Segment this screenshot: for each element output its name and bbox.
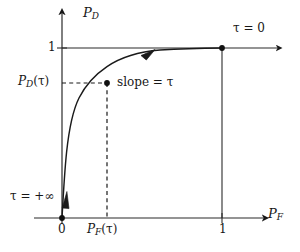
pd-tau-label: PD(τ) (18, 75, 49, 89)
slope-annotation-value: = τ (149, 75, 173, 89)
x-axis-label-main: P (268, 206, 277, 221)
y-axis-label: PD (83, 6, 99, 21)
tau-infinity-annotation: τ = +∞ (10, 190, 54, 202)
operating-point-marker (104, 80, 110, 86)
pd-tau-suffix: (τ) (33, 74, 49, 88)
x-tick-label-one: 1 (219, 223, 227, 235)
pf-tau-label: PF(τ) (87, 223, 117, 237)
x-axis-label-sub: F (277, 212, 283, 222)
slope-annotation-word: slope (117, 75, 149, 89)
pf-tau-prefix: P (87, 222, 95, 236)
tau-infinity-point-marker (59, 215, 65, 221)
pf-tau-suffix: (τ) (101, 222, 117, 236)
y-axis-label-main: P (83, 5, 92, 20)
tau-zero-point-marker (219, 45, 225, 51)
x-axis-label: PF (268, 207, 283, 222)
origin-tick-label: 0 (58, 223, 66, 235)
slope-annotation: slope = τ (117, 76, 173, 88)
pd-tau-prefix: P (18, 74, 26, 88)
y-tick-label-one: 1 (48, 41, 56, 53)
roc-curve-figure: PD PF 1 1 0 τ = 0 τ = +∞ PD(τ) PF(τ) slo… (0, 0, 300, 252)
roc-plot-svg (0, 0, 300, 252)
tau-zero-annotation: τ = 0 (233, 22, 265, 34)
roc-curve-path (62, 48, 222, 218)
y-axis-label-sub: D (92, 11, 99, 21)
